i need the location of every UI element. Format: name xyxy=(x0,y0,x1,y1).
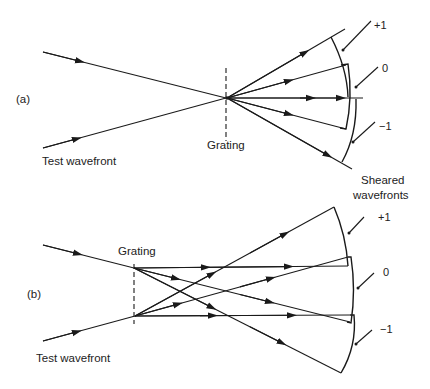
order-label-minus1: −1 xyxy=(380,323,393,335)
diffracted-rays-upper xyxy=(134,266,350,373)
input-rays xyxy=(43,52,226,148)
leader-line xyxy=(353,122,375,142)
order-label-plus1: +1 xyxy=(378,211,391,223)
leader-dot xyxy=(352,141,355,144)
test-wavefront-label: Test wavefront xyxy=(36,352,111,364)
arrow-icon xyxy=(250,327,282,343)
leader-dot xyxy=(348,232,351,235)
leader-line xyxy=(356,330,372,344)
order-label-minus1: −1 xyxy=(379,120,392,132)
panel-b: +1 0 −1 (b) Grating Test wavefront xyxy=(27,207,393,373)
leader-line xyxy=(349,217,364,233)
diffracted-rays-lower xyxy=(135,207,350,316)
leader-dot xyxy=(355,343,358,346)
wavefront-minus1 xyxy=(341,315,354,373)
arrow-icon xyxy=(250,234,285,253)
arrow-icon xyxy=(240,295,270,303)
arrow-icon xyxy=(134,268,212,308)
wavefront-zero xyxy=(347,257,354,323)
order-labels: +1 0 −1 xyxy=(342,19,392,144)
grating-shearing-diagram: +1 0 −1 (a) Grating Test wavefront Shear… xyxy=(0,0,430,389)
arrow-icon xyxy=(135,274,212,316)
arrow-icon xyxy=(43,52,80,61)
leader-line xyxy=(343,21,371,50)
order-label-zero: 0 xyxy=(383,266,389,278)
leader-line xyxy=(356,67,378,87)
panel-label-a: (a) xyxy=(16,93,30,105)
leader-dot xyxy=(357,287,360,290)
arrow-icon xyxy=(227,81,289,98)
leader-dot xyxy=(342,49,345,52)
order-label-plus1: +1 xyxy=(374,19,387,31)
grating-label: Grating xyxy=(207,139,245,151)
sheared-wavefronts xyxy=(334,207,354,373)
arrow-icon xyxy=(43,245,78,254)
test-wavefront-label: Test wavefront xyxy=(42,155,117,167)
arrow-icon xyxy=(134,267,206,268)
panel-a: +1 0 −1 (a) Grating Test wavefront Shear… xyxy=(16,19,409,201)
sheared-label-line2: wavefronts xyxy=(352,189,409,201)
leader-dot xyxy=(355,86,358,89)
panel-label-b: (b) xyxy=(27,288,41,300)
arrow-icon xyxy=(240,278,271,287)
arrow-icon xyxy=(134,268,176,279)
arrow-icon xyxy=(135,304,178,316)
arrow-icon xyxy=(227,53,305,99)
order-label-zero: 0 xyxy=(382,62,388,74)
leader-line xyxy=(358,273,374,288)
input-rays xyxy=(43,245,135,341)
arrow-icon xyxy=(43,332,77,341)
sheared-label-line1: Sheared xyxy=(361,174,404,186)
grating-label: Grating xyxy=(118,245,156,257)
arrow-icon xyxy=(43,139,77,148)
arrow-icon xyxy=(227,98,289,114)
